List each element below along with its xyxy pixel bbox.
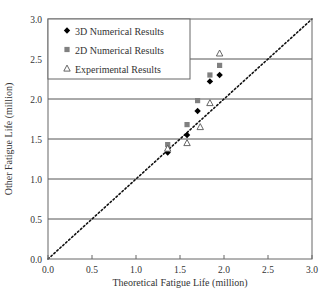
diamond-marker-icon [184, 132, 190, 138]
x-tick-label: 1.5 [174, 265, 186, 275]
y-axis-label: Other Fatigue Life (million) [3, 83, 15, 195]
y-tick-label: 2.5 [30, 55, 42, 65]
y-tick-label: 2.0 [30, 95, 42, 105]
legend-item-label: Experimental Results [75, 64, 161, 75]
triangle-marker-icon [207, 100, 213, 106]
square-marker-icon [217, 63, 222, 68]
series-3d-numerical-results [164, 72, 222, 156]
y-tick-label: 0.0 [30, 255, 42, 265]
square-marker-icon [195, 98, 200, 103]
square-marker-icon [64, 47, 69, 52]
diamond-marker-icon [207, 78, 213, 84]
x-tick-label: 3.0 [306, 265, 318, 275]
legend-item-label: 2D Numerical Results [75, 45, 164, 56]
x-tick-label: 2.5 [262, 265, 274, 275]
diamond-marker-icon [216, 72, 222, 78]
x-tick-label: 0.0 [42, 265, 54, 275]
fatigue-life-scatter-chart: 0.00.51.01.52.02.53.0 0.00.51.01.52.02.5… [0, 0, 334, 298]
legend: 3D Numerical Results2D Numerical Results… [48, 19, 190, 79]
triangle-marker-icon [184, 140, 190, 146]
x-tick-label: 2.0 [218, 265, 230, 275]
triangle-marker-icon [216, 50, 222, 56]
x-axis-ticks: 0.00.51.01.52.02.53.0 [42, 255, 318, 275]
square-marker-icon [207, 72, 212, 77]
x-axis-label: Theoretical Fatigue Life (million) [112, 277, 247, 289]
y-tick-label: 1.0 [30, 175, 42, 185]
legend-item-label: 3D Numerical Results [75, 26, 164, 37]
y-tick-label: 1.5 [30, 135, 42, 145]
y-axis-ticks: 0.00.51.01.52.02.53.0 [30, 15, 42, 265]
y-tick-label: 3.0 [30, 15, 42, 25]
triangle-marker-icon [197, 124, 203, 130]
x-tick-label: 1.0 [130, 265, 142, 275]
diamond-marker-icon [194, 108, 200, 114]
x-tick-label: 0.5 [86, 265, 98, 275]
square-marker-icon [184, 122, 189, 127]
y-tick-label: 0.5 [30, 215, 42, 225]
